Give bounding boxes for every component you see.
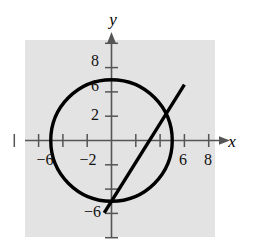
y-axis-arrowhead [107, 32, 116, 43]
x-axis-label: x [227, 132, 236, 151]
y-tick-label-2: 2 [91, 106, 99, 123]
plot-background-panel [25, 40, 215, 237]
y-tick-label-minus6: −6 [84, 203, 101, 220]
x-tick-label-minus2: −2 [79, 151, 96, 168]
x-tick-label-6: 6 [179, 151, 187, 168]
y-axis-label: y [107, 10, 117, 29]
x-tick-label-8: 8 [204, 151, 212, 168]
graph-figure: −6 −2 6 8 8 6 2 −6 x y [0, 0, 254, 247]
x-tick-label-minus6: −6 [36, 151, 53, 168]
coordinate-plane-graphic: −6 −2 6 8 8 6 2 −6 x y [0, 0, 254, 247]
y-tick-label-6: 6 [91, 77, 99, 94]
y-tick-label-8: 8 [91, 52, 99, 69]
